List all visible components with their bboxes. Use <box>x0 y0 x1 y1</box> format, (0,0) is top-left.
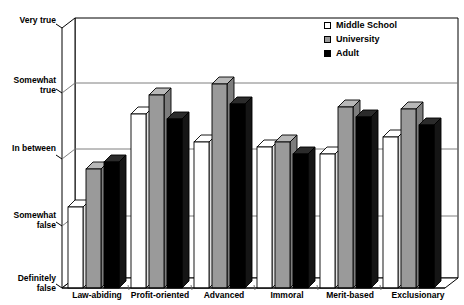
gray-square-icon <box>324 36 331 43</box>
bar-profit-oriented-adult <box>167 112 189 288</box>
x-tick-text: Law-abiding <box>72 290 122 300</box>
bar-group-profit-oriented <box>131 88 189 288</box>
y-tick-marks <box>56 24 62 288</box>
legend-label: Adult <box>336 48 359 58</box>
bar-immoral-adult <box>293 147 315 288</box>
bar-merit-based-adult <box>356 110 378 288</box>
bar-law-abiding-adult <box>104 155 126 288</box>
white-square-icon <box>324 22 331 29</box>
bar-group-exclusionary <box>383 102 441 288</box>
legend-label: Middle School <box>336 20 397 30</box>
x-tick-text: Merit-based <box>326 290 374 300</box>
x-tick-label-immoral: Immoral <box>252 290 322 300</box>
x-tick-text: Profit-oriented <box>131 290 190 300</box>
bar-advanced-adult <box>230 97 252 288</box>
legend-item-adult: Adult <box>324 46 397 60</box>
x-tick-label-advanced: Advanced <box>189 290 259 300</box>
x-tick-text: Immoral <box>270 290 303 300</box>
x-tick-text: Exclusionary <box>392 290 445 300</box>
legend: Middle School University Adult <box>324 18 397 60</box>
legend-item-university: University <box>324 32 397 46</box>
x-tick-label-exclusionary: Exclusionary <box>378 290 458 300</box>
x-tick-text: Advanced <box>204 290 245 300</box>
bar-group-immoral <box>257 135 315 288</box>
x-tick-label-profit-oriented: Profit-oriented <box>122 290 198 300</box>
legend-item-middle-school: Middle School <box>324 18 397 32</box>
black-square-icon <box>324 50 331 57</box>
x-tick-label-merit-based: Merit-based <box>313 290 387 300</box>
legend-label: University <box>336 34 380 44</box>
bar-chart: Very true Somewhat true In between Somew… <box>0 0 464 305</box>
bar-exclusionary-adult <box>419 118 441 288</box>
